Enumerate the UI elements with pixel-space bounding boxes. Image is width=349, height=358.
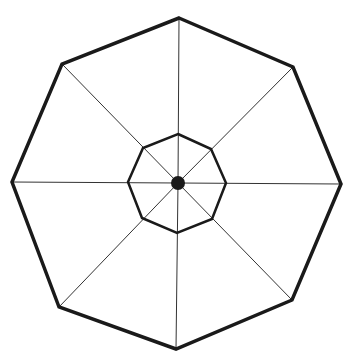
spoke-1 [178, 67, 293, 183]
spoke-7 [62, 64, 178, 183]
spoke-6 [12, 182, 178, 183]
spoke-2 [178, 183, 341, 184]
diagram-canvas [0, 0, 349, 358]
octagon-diagram [0, 0, 349, 358]
spoke-5 [59, 183, 178, 307]
spoke-3 [178, 183, 292, 300]
spoke-4 [176, 183, 178, 349]
center-hub [171, 176, 185, 190]
spoke-0 [178, 18, 179, 183]
